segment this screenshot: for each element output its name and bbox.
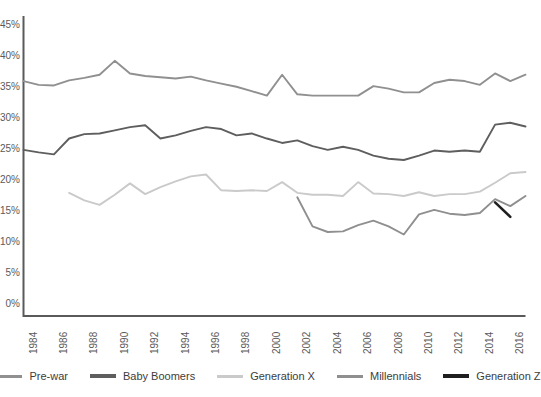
y-axis-tick-label: 0% xyxy=(0,298,20,309)
x-axis-tick-label: 2000 xyxy=(271,332,282,354)
series-line-millennials xyxy=(297,196,525,235)
legend-label: Generation X xyxy=(250,370,315,382)
x-axis-tick-label: 2008 xyxy=(393,332,404,354)
axis-spines xyxy=(24,16,526,316)
x-axis-tick-label: 2012 xyxy=(453,332,464,354)
legend-swatch xyxy=(217,375,243,378)
legend-item-baby-boomers[interactable]: Baby Boomers xyxy=(90,370,195,382)
legend-item-pre-war[interactable]: Pre-war xyxy=(0,370,68,382)
y-axis-tick-label: 20% xyxy=(0,174,20,185)
legend-label: Baby Boomers xyxy=(123,370,195,382)
x-axis-tick-label: 2016 xyxy=(514,332,525,354)
x-axis-tick-label: 2002 xyxy=(301,332,312,354)
x-axis-tick-label: 2004 xyxy=(332,332,343,354)
y-axis-tick-label: 25% xyxy=(0,143,20,154)
series-line-generation-x xyxy=(69,172,525,205)
x-axis-tick-label: 2006 xyxy=(362,332,373,354)
legend-item-generation-x[interactable]: Generation X xyxy=(217,370,315,382)
y-axis-tick-label: 10% xyxy=(0,236,20,247)
y-axis-tick-label: 15% xyxy=(0,205,20,216)
legend-swatch xyxy=(443,374,469,378)
x-axis-tick-label: 1992 xyxy=(149,332,160,354)
legend-item-millennials[interactable]: Millennials xyxy=(337,370,421,382)
series-line-baby-boomers xyxy=(24,123,526,160)
legend-swatch xyxy=(337,375,363,378)
legend-item-generation-z[interactable]: Generation Z xyxy=(443,370,540,382)
x-axis-tick-label: 1996 xyxy=(210,332,221,354)
x-axis-tick-label: 1984 xyxy=(28,332,39,354)
x-axis-tick-label: 2014 xyxy=(484,332,495,354)
legend-label: Generation Z xyxy=(476,370,540,382)
legend-swatch xyxy=(90,374,116,378)
y-axis-tick-label: 35% xyxy=(0,81,20,92)
y-axis-tick-label: 40% xyxy=(0,50,20,61)
legend-label: Millennials xyxy=(370,370,421,382)
y-axis-tick-label: 45% xyxy=(0,19,20,30)
chart-legend: Pre-warBaby BoomersGeneration XMillennia… xyxy=(0,364,537,388)
x-axis-tick-label: 1990 xyxy=(119,332,130,354)
legend-swatch xyxy=(0,375,22,378)
legend-label: Pre-war xyxy=(29,370,68,382)
x-axis-tick-label: 1986 xyxy=(58,332,69,354)
x-axis-tick-label: 2010 xyxy=(423,332,434,354)
y-axis-tick-label: 30% xyxy=(0,112,20,123)
x-axis-tick-label: 1994 xyxy=(180,332,191,354)
x-axis-tick-label: 1998 xyxy=(240,332,251,354)
y-axis-tick-label: 5% xyxy=(0,267,20,278)
series-line-pre-war xyxy=(24,61,526,96)
x-axis-tick-label: 1988 xyxy=(88,332,99,354)
